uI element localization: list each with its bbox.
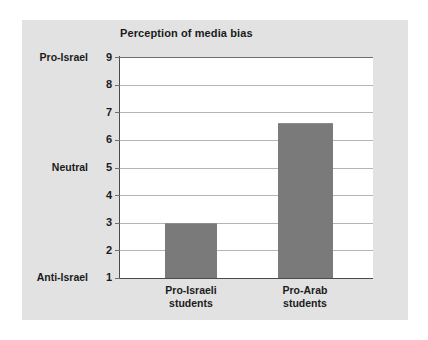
y-tick-label-5: 5 [92,162,112,173]
y-tick-label-9: 9 [92,52,112,63]
x-category-label-pro-arab-students: Pro-Arab students [250,284,360,310]
y-tick-label-4: 4 [92,190,112,201]
y-anchor-label-anti-israel: Anti-Israel [0,272,88,283]
gridline-2 [120,250,373,251]
gridline-5 [120,168,373,169]
tick-mark-9 [115,57,120,58]
x-category-label-line-1: Pro-Israeli [136,284,246,297]
gridline-7 [120,112,373,113]
gridline-4 [120,195,373,196]
tick-mark-8 [115,85,120,86]
tick-mark-5 [115,168,120,169]
tick-mark-4 [115,195,120,196]
bar-pro-israeli-students [165,223,217,278]
gridline-8 [120,85,373,86]
y-tick-label-2: 2 [92,245,112,256]
x-category-label-line-1: Pro-Arab [250,284,360,297]
x-category-label-line-2: students [250,297,360,310]
plot-top-frame [120,57,373,58]
bar-pro-arab-students [278,123,333,278]
tick-mark-2 [115,250,120,251]
gridline-6 [120,140,373,141]
x-category-label-line-2: students [136,297,246,310]
y-tick-label-7: 7 [92,107,112,118]
y-tick-label-8: 8 [92,79,112,90]
x-category-label-pro-israeli-students: Pro-Israeli students [136,284,246,310]
tick-mark-6 [115,140,120,141]
y-tick-label-6: 6 [92,134,112,145]
y-axis-anchor-labels: Pro-Israel Neutral Anti-Israel [0,0,88,340]
gridline-3 [120,223,373,224]
y-tick-label-1: 1 [92,272,112,283]
tick-mark-7 [115,112,120,113]
tick-mark-3 [115,223,120,224]
y-tick-label-3: 3 [92,217,112,228]
y-anchor-label-neutral: Neutral [0,162,88,173]
chart-title: Perception of media bias [120,27,253,39]
tick-mark-1 [115,278,120,279]
y-anchor-label-pro-israel: Pro-Israel [0,52,88,63]
x-axis-line [119,278,373,279]
